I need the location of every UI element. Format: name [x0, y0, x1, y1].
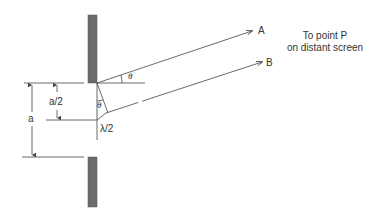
ray-b-label: B	[266, 58, 273, 68]
theta-arc-upper	[121, 75, 122, 83]
ray-b	[106, 62, 262, 113]
full-width-label: a	[28, 114, 34, 124]
caption-line-1: To point P	[275, 30, 375, 42]
slit-barrier-bottom	[88, 157, 97, 207]
ray-a	[97, 31, 252, 83]
screen-caption: To point P on distant screen	[275, 30, 375, 54]
theta-label-lower: θ	[97, 101, 101, 110]
caption-line-2: on distant screen	[275, 42, 375, 54]
ray-a-label: A	[258, 26, 265, 36]
theta-label-upper: θ	[128, 72, 132, 81]
ray-b-origin	[97, 113, 106, 120]
slit-barrier-top	[88, 15, 97, 83]
half-width-label: a/2	[49, 97, 63, 107]
path-difference-label: λ/2	[100, 124, 113, 134]
